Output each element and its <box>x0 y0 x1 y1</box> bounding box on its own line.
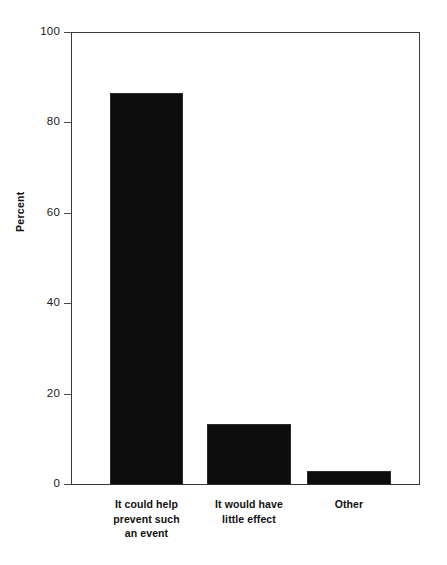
x-label-2: Other <box>287 497 411 512</box>
bar-chart: Percent 100 80 60 40 20 0 It could help … <box>0 0 447 565</box>
y-tick-label-40: 40 <box>16 296 60 310</box>
bar-it-could-help-prevent-such-an-event <box>110 93 183 485</box>
y-tick-label-100: 100 <box>16 25 60 39</box>
y-tick-label-60: 60 <box>16 206 60 220</box>
y-tick-label-20: 20 <box>16 387 60 401</box>
bars-layer <box>71 32 420 485</box>
y-tick-label-80: 80 <box>16 115 60 129</box>
bar-it-would-have-little-effect <box>207 424 291 485</box>
y-tick-label-0: 0 <box>16 477 60 491</box>
x-axis-labels: It could help prevent such an event It w… <box>71 497 420 559</box>
bar-other <box>307 471 391 485</box>
